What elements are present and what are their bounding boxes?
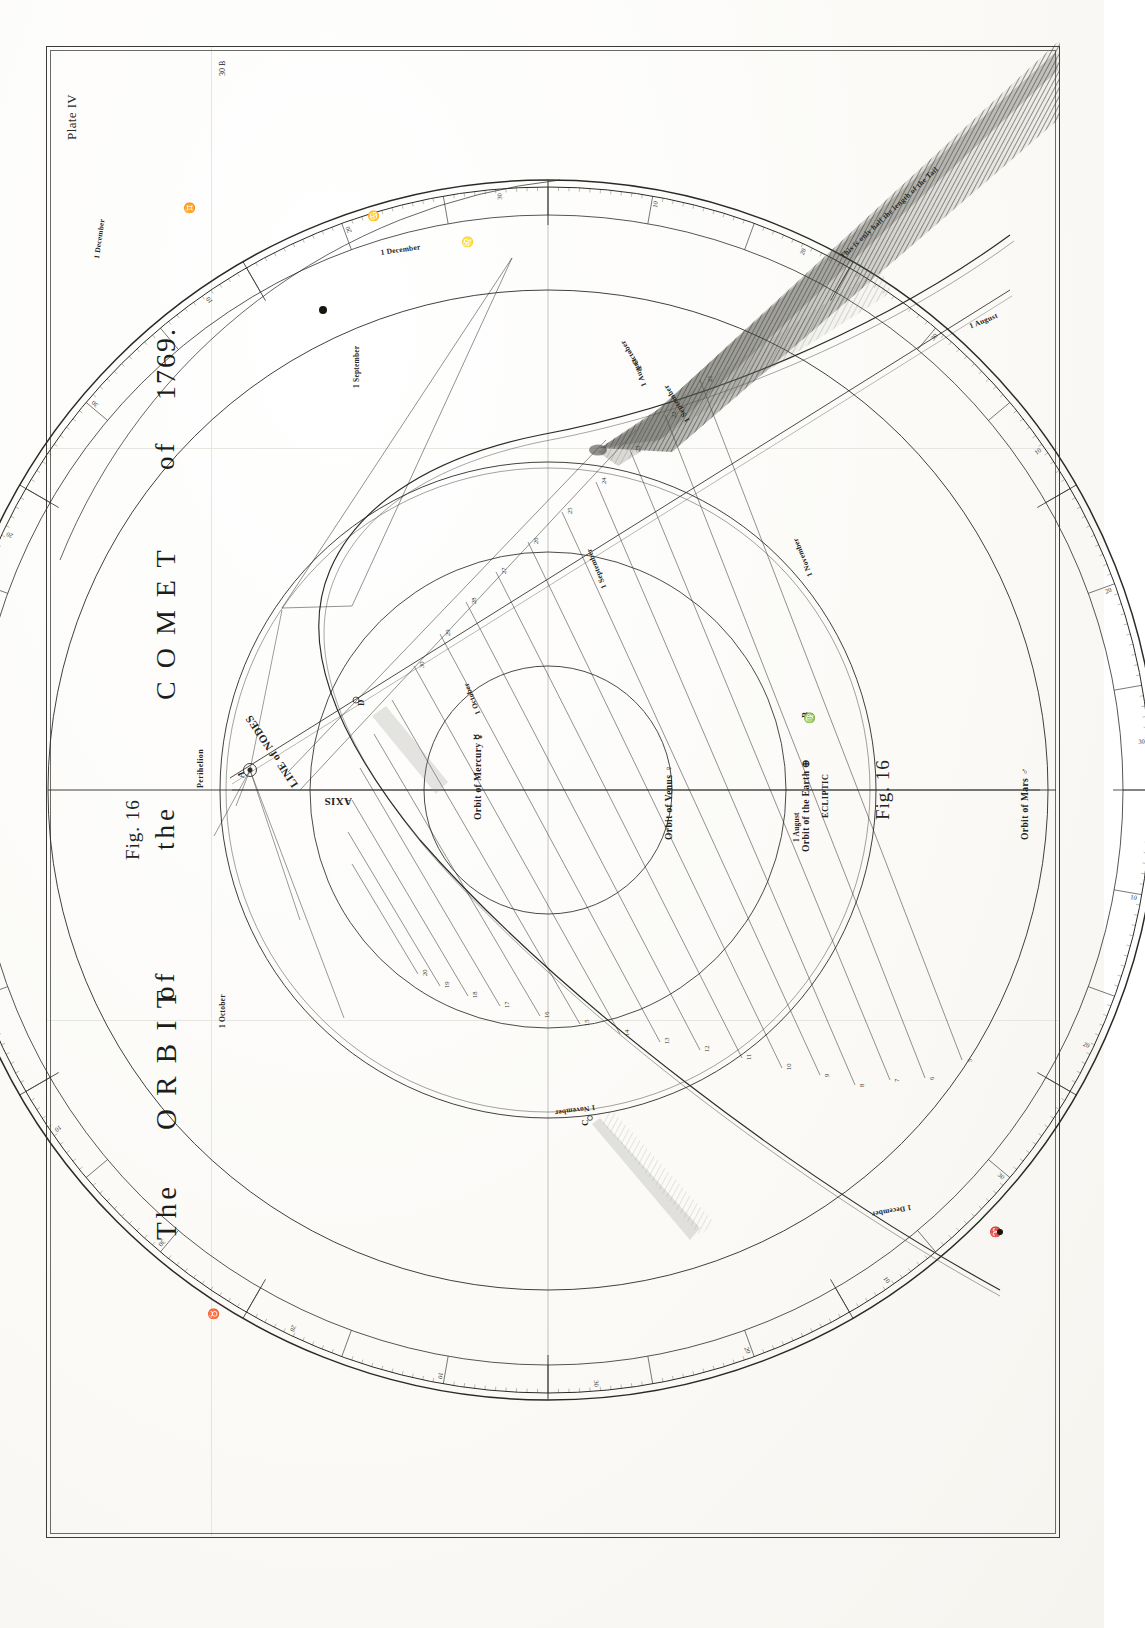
orbit-of-mercury-label: Orbit of Mercury ☿ <box>472 733 483 820</box>
radial-number-label: 5 <box>966 1059 973 1062</box>
radial-number-label: 29 <box>444 630 451 637</box>
ecliptic-label: ECLIPTIC <box>820 774 830 818</box>
degree-tick-label: 30 <box>1138 738 1145 746</box>
radial-number-label: 27 <box>500 568 507 575</box>
degree-tick-label: 10 <box>651 201 659 209</box>
title-word-of-2: of <box>150 440 181 471</box>
radial-number-label: 9 <box>823 1074 830 1077</box>
degree-tick-label: 30 <box>496 193 504 200</box>
title-word-the-2: the <box>150 805 181 850</box>
radial-number-label: 7 <box>893 1079 900 1082</box>
zodiac-virgo: ♍ <box>804 712 815 724</box>
radial-number-label: 13 <box>663 1038 670 1045</box>
zodiac-leo: ♌ <box>462 236 473 248</box>
title-word-orbit: O R B I T <box>150 988 183 1130</box>
radial-number-label: 18 <box>471 992 478 999</box>
radial-number-label: 25 <box>566 508 573 515</box>
comet-head <box>589 445 607 456</box>
radial-number-label: 17 <box>503 1002 510 1009</box>
radial-number-label: 30 <box>418 662 425 669</box>
radial-number-label: 10 <box>785 1064 792 1071</box>
degree-tick-label: 20 <box>1104 585 1113 594</box>
perihelion-label: Perihelion <box>196 749 205 788</box>
radial-number-label: 16 <box>543 1012 550 1019</box>
point-label-c: C <box>580 1120 590 1127</box>
radial-number-label: 21 <box>706 376 713 383</box>
radial-number-label: 19 <box>443 982 450 989</box>
date-1-august-right: 1 August <box>792 812 801 842</box>
radial-number-label: 28 <box>470 598 477 605</box>
radial-number-label: 15 <box>583 1020 590 1027</box>
axis-label: AXIS <box>324 796 352 808</box>
comet-tail-lower <box>592 1110 714 1240</box>
degree-tick-label: 10 <box>437 1372 445 1380</box>
date-1-october-left: 1 October <box>218 994 227 1028</box>
orbit-of-venus-label: Orbit of Venus ♀ <box>664 764 674 840</box>
radial-number-label: 24 <box>600 478 607 485</box>
zodiac-taurus: ♉ <box>208 1308 219 1320</box>
fig-label-right: Fig. 16 <box>872 759 894 820</box>
radial-number-label: 26 <box>532 538 539 545</box>
radial-number-label: 6 <box>928 1077 935 1080</box>
degree-tick-label: 10 <box>1130 893 1138 901</box>
zodiac-cancer: ♋ <box>368 210 379 222</box>
point-label-d: D <box>356 700 366 707</box>
ink-blot-lower <box>997 1229 1003 1235</box>
title-word-1769: 1769. <box>150 327 182 400</box>
radial-number-label: 23 <box>634 446 641 453</box>
fig-label-left: Fig. 16 <box>122 799 144 860</box>
radial-number-label: 14 <box>623 1030 630 1037</box>
title-word-of-1: of <box>150 970 181 1001</box>
radial-number-label: 12 <box>703 1046 710 1053</box>
point-label-a: A <box>236 772 246 779</box>
date-1-september-left: 1 September <box>352 346 361 388</box>
radial-number-label: 8 <box>858 1084 865 1087</box>
zodiac-gemini: ♊ <box>184 202 195 214</box>
ink-blot-upper <box>319 306 327 314</box>
orbit-of-the-earth-label: Orbit of the Earth ⊕ <box>800 759 811 852</box>
degree-tick-label: 30 <box>593 1380 601 1387</box>
orbit-of-mars-label: Orbit of Mars ♂ <box>1020 768 1030 841</box>
radial-number-label: 11 <box>745 1054 752 1060</box>
title-word-the: The <box>150 1183 183 1240</box>
title-word-comet: C O M E T <box>150 548 182 701</box>
radial-number-label: 22 <box>670 412 677 419</box>
radial-number-label: 20 <box>421 970 428 977</box>
